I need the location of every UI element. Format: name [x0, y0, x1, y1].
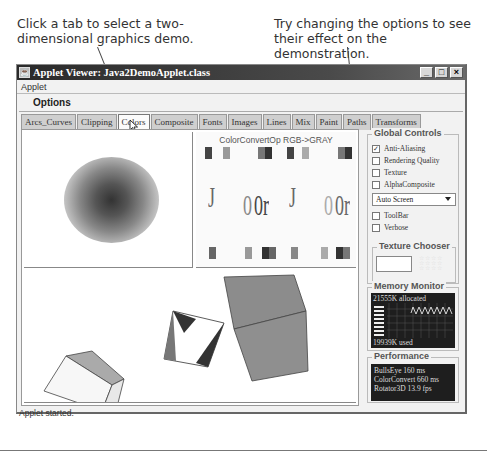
- swatch: [205, 147, 212, 159]
- checkbox-icon[interactable]: [372, 181, 380, 189]
- status-bar: Applet started.: [19, 408, 74, 418]
- chevron-down-icon[interactable]: [445, 197, 451, 201]
- checkbox-icon[interactable]: [372, 169, 380, 177]
- demo-canvas[interactable]: ColorConvertOp RGB->GRAY J 0 0r J 0 0r: [21, 129, 359, 406]
- glyph-j: J: [208, 182, 215, 212]
- glyph-j: J: [289, 182, 296, 212]
- rendering-quality-checkbox[interactable]: Rendering Quality: [372, 156, 440, 165]
- callout-tabs: Click a tab to select a two-dimensional …: [17, 16, 247, 46]
- glyph-or: 0r: [335, 190, 350, 220]
- swatch: [262, 247, 269, 259]
- swatch: [287, 147, 294, 159]
- tab-images[interactable]: Images: [228, 114, 262, 130]
- texture-swatch-pattern[interactable]: ☆☆☆☆☆☆☆☆☆☆☆☆: [419, 256, 453, 272]
- swatch: [265, 147, 272, 159]
- swatch: [338, 147, 345, 159]
- texture-chooser-title: Texture Chooser: [377, 241, 452, 251]
- tab-clipping[interactable]: Clipping: [77, 114, 117, 130]
- perf-line-colorconvert: ColorConvert 660 ms: [374, 375, 452, 384]
- rotating-cubes: [24, 271, 356, 403]
- tab-mix[interactable]: Mix: [292, 114, 315, 130]
- swatch: [321, 247, 328, 259]
- performance-title: Performance: [372, 351, 431, 361]
- tab-arcs-curves[interactable]: Arcs_Curves: [21, 114, 76, 130]
- applet-viewer-window: ☕ Applet Viewer: Java2DemoApplet.class _…: [16, 64, 467, 414]
- texture-swatch-empty[interactable]: [376, 256, 412, 272]
- maximize-button[interactable]: □: [435, 67, 448, 78]
- memory-monitor-display[interactable]: 21555K allocated: [371, 293, 455, 348]
- swatch: [343, 247, 350, 259]
- performance-group: Performance BullsEye 160 ms ColorConvert…: [367, 357, 459, 403]
- bullseye-demo[interactable]: [24, 132, 193, 268]
- alpha-composite-checkbox[interactable]: AlphaComposite: [372, 180, 435, 189]
- tab-lines[interactable]: Lines: [263, 114, 291, 130]
- verbose-checkbox[interactable]: Verbose: [372, 223, 408, 232]
- toolbar-checkbox[interactable]: ToolBar: [372, 211, 408, 220]
- menu-applet[interactable]: Applet: [21, 82, 47, 92]
- tab-fonts[interactable]: Fonts: [199, 114, 227, 130]
- perf-line-rotator3d: Rotator3D 13.9 fps: [374, 384, 452, 393]
- close-button[interactable]: ×: [450, 67, 463, 78]
- page-divider: [0, 450, 487, 451]
- texture-chooser-group: Texture Chooser ☆☆☆☆☆☆☆☆☆☆☆☆: [372, 247, 456, 283]
- tab-paths[interactable]: Paths: [343, 114, 371, 130]
- memory-used: 19939K used: [373, 338, 413, 347]
- colorconvert-demo[interactable]: ColorConvertOp RGB->GRAY J 0 0r J 0 0r: [196, 132, 356, 268]
- global-controls-group: Global Controls ✓ Anti-Aliasing Renderin…: [367, 134, 459, 284]
- memory-monitor-group: Memory Monitor 21555K allocated: [367, 287, 459, 351]
- texture-checkbox[interactable]: Texture: [372, 168, 407, 177]
- global-controls-title: Global Controls: [372, 128, 444, 138]
- tab-paint[interactable]: Paint: [316, 114, 343, 130]
- memory-allocated: 21555K allocated: [373, 294, 426, 303]
- swatch: [258, 147, 265, 159]
- checkbox-icon[interactable]: [372, 224, 380, 232]
- anti-aliasing-checkbox[interactable]: ✓ Anti-Aliasing: [372, 144, 425, 153]
- swatch: [245, 247, 252, 259]
- memory-graph: [373, 303, 453, 338]
- minimize-button[interactable]: _: [420, 67, 433, 78]
- glyph-or: 0r: [254, 190, 269, 220]
- window-title: Applet Viewer: Java2DemoApplet.class: [33, 67, 420, 78]
- options-header: Options: [19, 94, 463, 112]
- screen-select[interactable]: Auto Screen: [372, 193, 456, 206]
- swatch: [209, 247, 216, 259]
- swatch: [269, 247, 276, 259]
- swatch: [336, 247, 343, 259]
- checkbox-icon[interactable]: [372, 157, 380, 165]
- memory-monitor-title: Memory Monitor: [372, 281, 446, 291]
- glyph-o: 0: [324, 190, 333, 220]
- title-bar[interactable]: ☕ Applet Viewer: Java2DemoApplet.class _…: [17, 65, 465, 80]
- callout-options: Try changing the options to see their ef…: [274, 16, 484, 61]
- swatch: [223, 147, 230, 159]
- checkbox-icon[interactable]: [372, 212, 380, 220]
- menu-bar: Applet: [17, 80, 465, 94]
- bullseye-gradient: [64, 157, 159, 243]
- perf-line-bullseye: BullsEye 160 ms: [374, 366, 452, 375]
- glyph-o: 0: [243, 190, 252, 220]
- rotator3d-demo[interactable]: [24, 271, 356, 403]
- swatch: [302, 147, 309, 159]
- swatch: [291, 247, 298, 259]
- tab-composite[interactable]: Composite: [151, 114, 198, 130]
- colorconvert-title: ColorConvertOp RGB->GRAY: [196, 135, 356, 145]
- options-sidebar: Global Controls ✓ Anti-Aliasing Renderin…: [365, 129, 461, 406]
- swatch: [345, 147, 352, 159]
- performance-display: BullsEye 160 ms ColorConvert 660 ms Rota…: [371, 364, 455, 401]
- java-cup-icon[interactable]: ☕: [19, 67, 30, 78]
- demo-tabs: Arcs_Curves Clipping Colors Composite Fo…: [21, 114, 422, 130]
- checkbox-checked-icon[interactable]: ✓: [372, 145, 380, 153]
